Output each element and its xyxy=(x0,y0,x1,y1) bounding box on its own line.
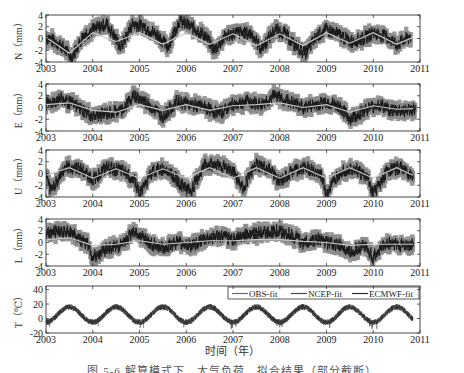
x-tick-label: 2008 xyxy=(270,267,290,278)
figure-caption: 图 5-6 解算模式下…大气负荷…拟合结果（部分截断） xyxy=(0,362,464,373)
x-tick-label: 2006 xyxy=(176,63,196,74)
panel-U: 200320042005200620072008200920102011420-… xyxy=(13,145,430,210)
y-axis-label: U（mm） xyxy=(13,152,24,195)
y-tick-label: -4 xyxy=(35,57,43,68)
x-tick-label: 2011 xyxy=(410,267,430,278)
x-axis-label: 时间（年） xyxy=(0,342,464,358)
y-tick-label: 2 xyxy=(38,21,43,32)
legend-entry: OBS-fit xyxy=(249,289,278,299)
y-tick-label: -20 xyxy=(30,328,43,339)
x-tick-label: 2007 xyxy=(223,132,243,143)
y-tick-label: 20 xyxy=(33,299,43,310)
x-tick-label: 2009 xyxy=(317,267,337,278)
y-tick-label: -2 xyxy=(35,249,43,260)
y-tick-label: 40 xyxy=(33,284,43,295)
y-tick-label: 0 xyxy=(38,168,43,179)
y-tick-label: 2 xyxy=(38,225,43,236)
x-tick-label: 2009 xyxy=(317,132,337,143)
y-axis-label: E（mm） xyxy=(13,87,24,129)
x-tick-label: 2005 xyxy=(130,198,150,209)
x-tick-label: 2011 xyxy=(410,198,430,209)
y-tick-label: 2 xyxy=(38,90,43,101)
x-tick-label: 2010 xyxy=(363,132,383,143)
legend-entry: NCEP-fit xyxy=(308,289,343,299)
y-axis-label: L（mm） xyxy=(13,222,24,264)
panel-E: 200320042005200620072008200920102011420-… xyxy=(13,79,430,144)
panel-N: 200320042005200620072008200920102011420-… xyxy=(13,10,430,75)
y-tick-label: 2 xyxy=(38,156,43,167)
y-tick-label: -4 xyxy=(35,192,43,203)
plot-area xyxy=(44,84,418,129)
x-tick-label: 2006 xyxy=(176,267,196,278)
x-tick-label: 2004 xyxy=(83,267,103,278)
x-tick-label: 2005 xyxy=(130,132,150,143)
plot-area xyxy=(44,11,413,68)
plot-area xyxy=(44,153,415,204)
x-tick-label: 2005 xyxy=(130,267,150,278)
y-tick-label: 0 xyxy=(38,102,43,113)
y-tick-label: 0 xyxy=(38,237,43,248)
y-axis-label: T（℃） xyxy=(13,291,24,328)
x-tick-label: 2010 xyxy=(363,198,383,209)
x-tick-label: 2007 xyxy=(223,63,243,74)
panel-L: 200320042005200620072008200920102011420-… xyxy=(13,214,430,279)
x-tick-label: 2008 xyxy=(270,198,290,209)
x-tick-label: 2007 xyxy=(223,198,243,209)
x-tick-label: 2004 xyxy=(83,132,103,143)
x-tick-label: 2011 xyxy=(410,63,430,74)
y-tick-label: -2 xyxy=(35,45,43,56)
x-tick-label: 2006 xyxy=(176,132,196,143)
x-tick-label: 2004 xyxy=(83,63,103,74)
x-tick-label: 2009 xyxy=(317,63,337,74)
x-tick-label: 2010 xyxy=(363,267,383,278)
y-tick-label: -4 xyxy=(35,126,43,137)
y-tick-label: 4 xyxy=(38,79,43,90)
x-tick-label: 2011 xyxy=(410,132,430,143)
legend-entry: ECMWF-fit xyxy=(369,289,413,299)
plot-area xyxy=(46,304,413,329)
legend: OBS-fitNCEP-fitECMWF-fit xyxy=(228,287,419,299)
y-tick-label: 4 xyxy=(38,145,43,156)
x-tick-label: 2004 xyxy=(83,198,103,209)
figure-canvas: 200320042005200620072008200920102011420-… xyxy=(0,0,464,373)
x-tick-label: 2009 xyxy=(317,198,337,209)
x-tick-label: 2010 xyxy=(363,63,383,74)
y-tick-label: -4 xyxy=(35,261,43,272)
y-tick-label: -2 xyxy=(35,180,43,191)
x-tick-label: 2008 xyxy=(270,132,290,143)
y-tick-label: -2 xyxy=(35,114,43,125)
y-tick-label: 4 xyxy=(38,10,43,21)
plot-area xyxy=(44,220,415,266)
y-tick-label: 0 xyxy=(38,33,43,44)
x-tick-label: 2007 xyxy=(223,267,243,278)
y-axis-label: N（mm） xyxy=(13,17,24,60)
y-tick-label: 0 xyxy=(38,313,43,324)
x-tick-label: 2006 xyxy=(176,198,196,209)
panel-T: OBS-fitNCEP-fitECMWF-fit2003200420052006… xyxy=(13,284,430,345)
x-tick-label: 2008 xyxy=(270,63,290,74)
x-tick-label: 2005 xyxy=(130,63,150,74)
y-tick-label: 4 xyxy=(38,214,43,225)
